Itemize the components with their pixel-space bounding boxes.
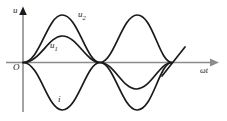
curve-label-u1-subscript: 1 — [55, 45, 58, 52]
waveform-figure: u O ωt u1 u2 i — [0, 0, 227, 121]
x-axis-arrow-icon — [210, 59, 219, 67]
x-axis-label: ωt — [200, 67, 208, 75]
plot-canvas — [0, 0, 227, 121]
curve-u2 — [23, 15, 172, 63]
curve-label-u2-subscript: 2 — [83, 14, 86, 21]
y-axis-label: u — [13, 6, 18, 15]
y-axis-group — [19, 7, 27, 113]
origin-label: O — [13, 63, 20, 72]
x-axis-group — [6, 59, 219, 67]
curve-label-i: i — [58, 95, 61, 104]
curve-label-u1: u1 — [50, 41, 58, 52]
y-axis-arrow-icon — [19, 7, 27, 16]
crossing-tangent-stroke — [162, 47, 185, 76]
curve-label-u2: u2 — [78, 10, 86, 21]
curve-i — [23, 63, 172, 111]
